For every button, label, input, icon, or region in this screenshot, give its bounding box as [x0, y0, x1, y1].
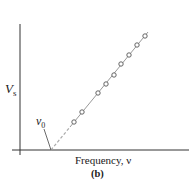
data-point-marker: [80, 110, 84, 114]
plot-lines: [44, 32, 148, 150]
data-point-marker: [72, 120, 76, 124]
extrapolation-dashed-line: [51, 127, 70, 150]
nu0-annotation: ν0: [36, 114, 45, 130]
nu0-subscript: 0: [41, 121, 45, 130]
data-point-marker: [119, 62, 123, 66]
data-point-marker: [143, 34, 147, 38]
panel-label: (b): [91, 168, 104, 180]
y-axis-label-subscript: s: [13, 88, 17, 98]
y-axis-label: Vs: [5, 81, 17, 98]
data-point-marker: [135, 43, 139, 47]
nu0-pointer-line: [44, 129, 51, 150]
x-axis-label: Frequency, ν: [75, 154, 131, 166]
chart: Vs ν0 Frequency, ν (b): [0, 0, 191, 181]
data-point-marker: [96, 91, 100, 95]
data-point-marker: [112, 73, 116, 77]
data-point-marker: [127, 53, 131, 57]
labels: Vs ν0 Frequency, ν (b): [5, 81, 131, 180]
data-point-marker: [104, 82, 108, 86]
